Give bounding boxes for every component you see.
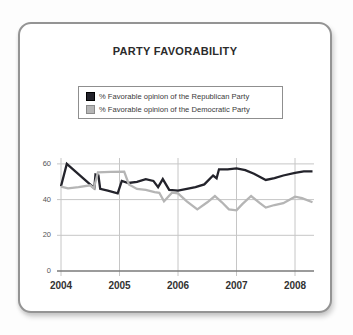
- legend-item-republican: % Favorable opinion of the Republican Pa…: [86, 90, 282, 103]
- screenshot-background: PARTY FAVORABILITY % Favorable opinion o…: [0, 0, 353, 335]
- republican-swatch-icon: [86, 92, 95, 101]
- x-tick-label-2008: 2008: [275, 280, 315, 291]
- legend-item-label: % Favorable opinion of the Republican Pa…: [99, 92, 249, 101]
- x-tick-label-2005: 2005: [100, 280, 140, 291]
- legend: % Favorable opinion of the Republican Pa…: [78, 86, 283, 119]
- republican-line: [61, 164, 313, 194]
- y-tick-label-0: 0: [25, 266, 51, 276]
- legend-item-label: % Favorable opinion of the Democratic Pa…: [99, 105, 250, 114]
- x-tick-label-2006: 2006: [158, 280, 198, 291]
- x-tick-label-2004: 2004: [41, 280, 81, 291]
- legend-item-democratic: % Favorable opinion of the Democratic Pa…: [86, 103, 282, 116]
- y-tick-label-40: 40: [25, 195, 51, 205]
- y-tick-label-60: 60: [25, 159, 51, 169]
- y-tick-label-20: 20: [25, 230, 51, 240]
- x-tick-label-2007: 2007: [217, 280, 257, 291]
- line-chart: [40, 150, 332, 298]
- chart-title: PARTY FAVORABILITY: [18, 45, 332, 57]
- democratic-swatch-icon: [86, 105, 95, 114]
